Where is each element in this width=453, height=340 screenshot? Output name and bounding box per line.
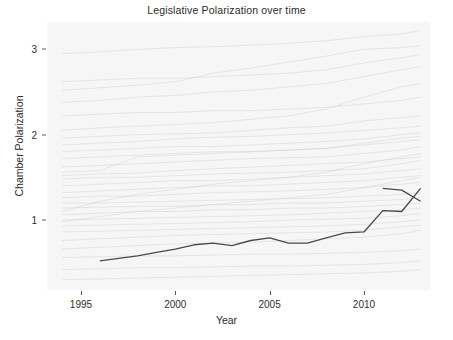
series-line-bg-13 [62,176,420,193]
series-line-bg-25 [62,270,420,280]
x-tick-label-2010: 2010 [344,299,384,310]
series-line-bg-3 [62,66,420,102]
plot-area-svg [47,22,430,290]
background-series-group [62,31,420,280]
chart-title: Legislative Polarization over time [0,4,453,16]
series-line-bg-2 [62,46,420,90]
series-line-bg-22 [62,230,420,249]
plot-panel [47,22,430,290]
series-line-bg-27 [62,136,420,172]
series-line-bg-9 [62,147,420,167]
y-axis-title: Chamber Polarization [13,51,25,241]
x-tick-label-1995: 1995 [61,299,101,310]
series-line-bg-26 [62,97,420,116]
series-line-bg-10 [62,157,420,176]
x-tick-label-2000: 2000 [155,299,195,310]
x-tick-label-2005: 2005 [250,299,290,310]
x-tick-mark-1995 [81,291,82,295]
y-tick-mark-1 [42,220,46,221]
x-tick-mark-2000 [175,291,176,295]
series-line-bg-30 [62,54,420,81]
x-tick-mark-2010 [364,291,365,295]
series-line-bg-23 [62,249,420,258]
y-tick-mark-2 [42,134,46,135]
x-axis-title: Year [0,314,453,326]
chart-figure: Legislative Polarization over time 123 C… [0,0,453,340]
series-line-bg-24 [62,261,420,270]
y-tick-mark-3 [42,49,46,50]
series-line-bg-1 [62,31,420,54]
series-line-bg-21 [62,225,420,240]
x-tick-mark-2005 [270,291,271,295]
x-axis: 1995200020052010 Year [0,290,453,340]
y-axis: 123 Chamber Polarization [0,0,47,340]
